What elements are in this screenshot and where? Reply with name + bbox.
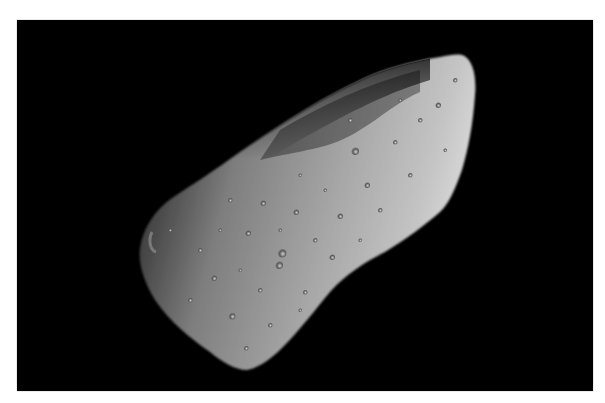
space-photo-frame: [17, 20, 593, 391]
asteroid-body: [120, 40, 480, 380]
asteroid-illustration: [17, 20, 593, 391]
